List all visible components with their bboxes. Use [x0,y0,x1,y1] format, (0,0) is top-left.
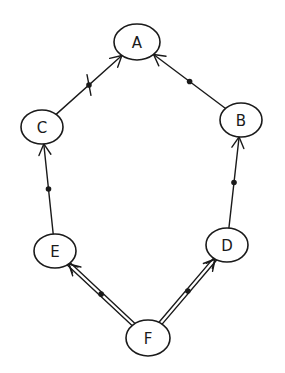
node-e-label: E [50,243,59,261]
edge-c-to-a [56,56,122,115]
node-b: B [220,103,262,137]
node-e: E [34,234,76,268]
edge-dot-marker [187,79,193,85]
node-d-label: D [221,237,233,255]
arrowhead-icon [69,264,81,276]
graph-diagram: A B C D E F [0,0,285,373]
node-c: C [21,110,63,144]
edge-b-to-a [154,54,226,108]
node-f-label: F [144,330,153,348]
node-f: F [126,320,170,356]
edges-layer [39,54,244,325]
node-a: A [114,24,160,60]
edge-e-to-c [39,144,53,234]
edge-dot-marker [231,180,237,186]
edge-f-to-d [159,258,216,325]
edge-dot-marker [98,291,104,297]
node-d: D [206,228,248,262]
nodes-layer: A B C D E F [21,24,262,356]
node-a-label: A [132,34,143,52]
edge-f-to-e [68,263,135,326]
edge-dot-marker [185,288,191,294]
node-b-label: B [236,112,246,130]
edge-dot-marker [46,186,52,192]
edge-d-to-b [229,137,244,228]
node-c-label: C [37,119,47,137]
